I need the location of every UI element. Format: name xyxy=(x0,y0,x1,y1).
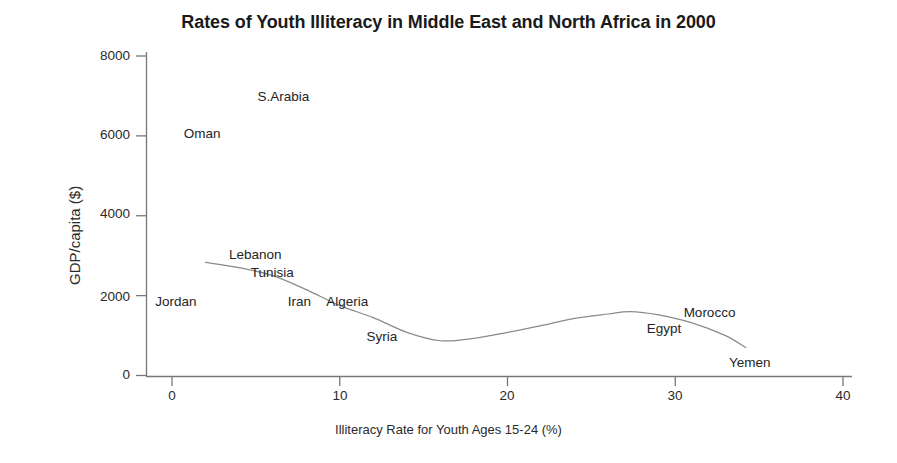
data-point-label-s-arabia: S.Arabia xyxy=(258,89,310,104)
x-axis-ticks xyxy=(172,377,843,386)
data-point-label-oman: Oman xyxy=(184,126,221,141)
data-point-label-tunisia: Tunisia xyxy=(251,265,294,280)
data-point-label-algeria: Algeria xyxy=(326,294,368,309)
data-point-label-lebanon: Lebanon xyxy=(229,247,282,262)
data-point-label-yemen: Yemen xyxy=(729,355,771,370)
data-point-label-jordan: Jordan xyxy=(155,294,196,309)
axis-lines xyxy=(146,52,852,377)
data-point-label-iran: Iran xyxy=(288,294,311,309)
chart-container: Rates of Youth Illiteracy in Middle East… xyxy=(0,0,897,463)
plot-area xyxy=(0,0,897,463)
data-point-label-syria: Syria xyxy=(367,329,398,344)
data-point-label-morocco: Morocco xyxy=(684,305,736,320)
data-point-label-egypt: Egypt xyxy=(647,321,682,336)
y-axis-ticks xyxy=(136,56,147,376)
